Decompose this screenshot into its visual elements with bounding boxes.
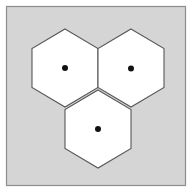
center-dot-bottom-center <box>95 126 101 132</box>
center-dot-top-right <box>128 66 134 72</box>
hexagon-cluster-figure <box>0 0 192 195</box>
figure-root <box>0 0 192 195</box>
center-dot-top-left <box>62 65 68 71</box>
